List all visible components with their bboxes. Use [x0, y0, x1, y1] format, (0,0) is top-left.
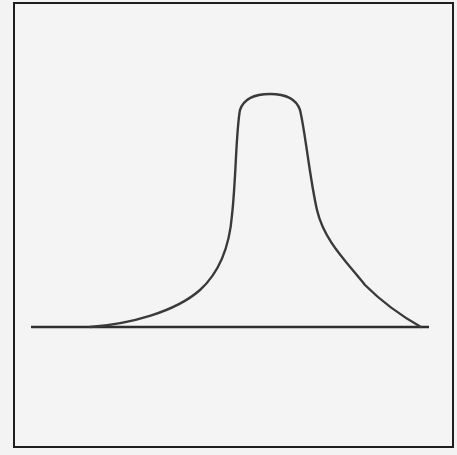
distribution-diagram: [0, 0, 457, 455]
distribution-curve: [90, 94, 421, 327]
